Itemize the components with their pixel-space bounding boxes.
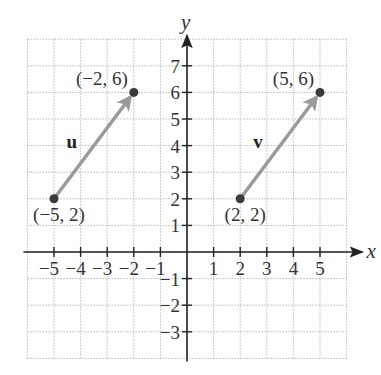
y-tick-label: 6 <box>171 82 181 103</box>
y-tick-label: 4 <box>171 136 181 157</box>
point-start-v <box>236 194 245 203</box>
x-tick-label: −4 <box>65 258 86 279</box>
x-tick-label: 3 <box>262 258 272 279</box>
y-tick-label: −1 <box>160 269 180 290</box>
point-label-start-u: (−5, 2) <box>33 204 85 226</box>
point-end-u <box>129 88 138 97</box>
x-tick-label: 5 <box>315 258 325 279</box>
y-tick-label: 2 <box>171 189 181 210</box>
x-tick-label: 4 <box>289 258 299 279</box>
x-tick-label: 2 <box>235 258 245 279</box>
x-tick-label: −5 <box>39 258 59 279</box>
y-tick-label: 7 <box>171 56 181 77</box>
vector-label-v: v <box>253 131 263 152</box>
axes: xy <box>23 10 376 361</box>
y-tick-label: 1 <box>171 215 181 236</box>
x-axis-label: x <box>366 239 377 263</box>
point-label-end-v: (5, 6) <box>273 68 314 90</box>
vector-label-u: u <box>67 131 78 152</box>
x-tick-label: −3 <box>92 258 112 279</box>
y-tick-label: 5 <box>171 109 181 130</box>
y-tick-label: 3 <box>171 162 181 183</box>
point-label-end-u: (−2, 6) <box>76 68 128 90</box>
coordinate-plane: xy −5−4−3−2−112345−3−2−11234567 u(−2, 6)… <box>0 0 381 375</box>
vector-v <box>240 97 316 199</box>
x-tick-label: −2 <box>119 258 139 279</box>
y-axis-label: y <box>179 10 191 34</box>
point-end-v <box>316 88 325 97</box>
y-tick-label: −2 <box>160 295 180 316</box>
point-label-start-v: (2, 2) <box>225 204 266 226</box>
y-tick-label: −3 <box>160 322 180 343</box>
vector-u <box>54 97 130 199</box>
x-tick-label: 1 <box>209 258 219 279</box>
point-start-u <box>50 194 59 203</box>
